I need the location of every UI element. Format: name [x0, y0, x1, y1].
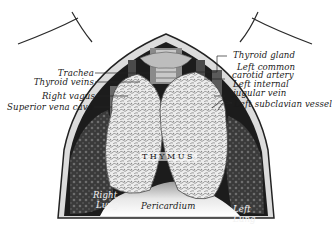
- label-thymus: THYMUS: [140, 152, 197, 161]
- label-left-subclavian-vessel: Left subclavian vessel: [234, 100, 332, 109]
- label-right-lung-2: Lung: [96, 201, 119, 210]
- label-right-vagus: Right vagus: [42, 92, 95, 101]
- label-superior-vena-cava: Superior vena cava: [7, 103, 93, 112]
- label-thyroid-gland: Thyroid gland: [233, 51, 295, 60]
- label-jugular-vein: jugular vein: [233, 89, 286, 98]
- label-left-lung-2: Lung: [233, 215, 256, 224]
- label-right-lung-1: Right: [93, 191, 117, 200]
- label-left-lung-1: Left: [233, 205, 251, 214]
- label-thyroid-veins: Thyroid veins: [34, 78, 94, 87]
- label-pericardium: Pericardium: [141, 202, 195, 211]
- anatomical-illustration: [0, 0, 332, 252]
